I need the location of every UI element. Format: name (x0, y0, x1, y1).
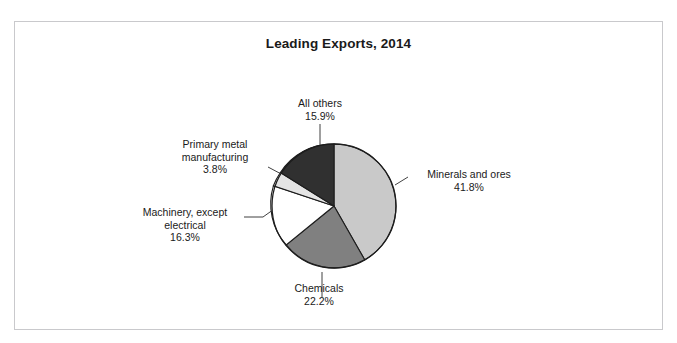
pie-chart: All others 15.9% Primary metal manufactu… (15, 22, 664, 331)
pie-label-chemicals-name: Chemicals (263, 282, 375, 295)
pie-label-minerals-name: Minerals and ores (411, 168, 527, 181)
pie-label-chemicals: Chemicals 22.2% (263, 282, 375, 307)
pie-label-all-others-name: All others (266, 97, 374, 110)
pie-label-primary-metal-value: 3.8% (160, 163, 270, 176)
cropped-header-text (20, 0, 140, 7)
leader-line-minerals (395, 177, 408, 185)
figure-frame: Leading Exports, 2014 (14, 21, 663, 330)
pie-label-primary-metal-line1: Primary metal (160, 138, 270, 151)
pie-label-minerals-value: 41.8% (411, 181, 527, 194)
pie-label-machinery-line2: electrical (124, 219, 246, 232)
pie-label-primary-metal-manufacturing: Primary metal manufacturing 3.8% (160, 138, 270, 176)
pie-label-machinery-except-electrical: Machinery, except electrical 16.3% (124, 206, 246, 244)
pie-label-all-others: All others 15.9% (266, 97, 374, 122)
pie-label-primary-metal-line2: manufacturing (160, 151, 270, 164)
pie-label-minerals-and-ores: Minerals and ores 41.8% (411, 168, 527, 193)
pie-label-machinery-line1: Machinery, except (124, 206, 246, 219)
pie-label-chemicals-value: 22.2% (263, 295, 375, 308)
pie-label-all-others-value: 15.9% (266, 110, 374, 123)
pie-label-machinery-value: 16.3% (124, 231, 246, 244)
